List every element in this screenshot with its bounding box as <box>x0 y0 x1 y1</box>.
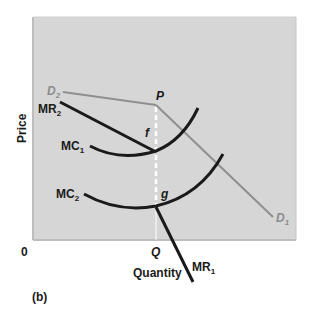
mc2-label: MC2 <box>56 188 79 203</box>
d1-label: D1 <box>276 212 289 227</box>
point-p-label: P <box>156 90 164 102</box>
x-axis-label: Quantity <box>133 267 182 279</box>
x-tick-q-label: Q <box>151 246 160 258</box>
plot-area <box>33 17 296 240</box>
panel-label: (b) <box>32 291 47 303</box>
origin-label: 0 <box>21 246 28 258</box>
mc1-label: MC1 <box>61 140 84 155</box>
mr2-label: MR2 <box>38 103 61 118</box>
d2-label: D2 <box>47 85 60 100</box>
point-g-label: g <box>161 188 168 200</box>
mr1-label: MR1 <box>192 261 215 276</box>
y-axis-label: Price <box>16 114 28 143</box>
point-f-label: f <box>145 127 149 139</box>
kinked-demand-diagram: D2 D1 MR2 MR1 MC1 MC2 P f g 0 Q Quantity… <box>0 0 310 313</box>
